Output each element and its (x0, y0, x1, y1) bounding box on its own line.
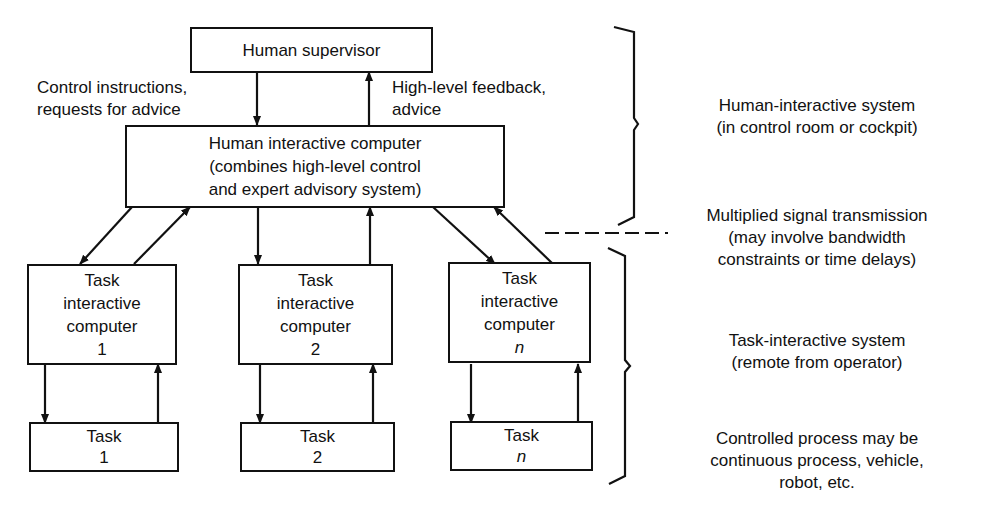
feedback-label: High-level feedback, advice (392, 77, 546, 121)
task-interactive-computer-2: Task interactive computer 2 (238, 264, 393, 365)
task-interactive-system-annotation: Task-interactive system (remote from ope… (672, 330, 962, 374)
lower-brace-icon (608, 248, 630, 484)
human-interactive-computer-box: Human interactive computer (combines hig… (125, 125, 505, 208)
human-supervisor-label: Human supervisor (243, 39, 381, 62)
controlled-process-annotation: Controlled process may be continuous pro… (662, 428, 972, 494)
task-interactive-computer-1: Task interactive computer 1 (27, 264, 177, 365)
task-interactive-computer-n: Task interactive computer n (448, 262, 591, 363)
human-interactive-system-annotation: Human-interactive system (in control roo… (672, 95, 962, 139)
task-n-box: Task n (450, 421, 593, 471)
upper-brace-icon (614, 27, 638, 225)
signal-transmission-annotation: Multiplied signal transmission (may invo… (672, 205, 962, 271)
task-2-box: Task 2 (240, 422, 395, 472)
control-instructions-label: Control instructions, requests for advic… (37, 77, 187, 121)
human-supervisor-box: Human supervisor (190, 27, 433, 73)
task-1-box: Task 1 (29, 422, 179, 472)
